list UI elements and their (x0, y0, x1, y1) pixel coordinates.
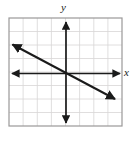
coordinate-plane-figure: y x (0, 0, 134, 142)
x-axis-label: x (124, 67, 129, 78)
graph-canvas (0, 0, 134, 142)
y-axis-label: y (61, 2, 66, 13)
